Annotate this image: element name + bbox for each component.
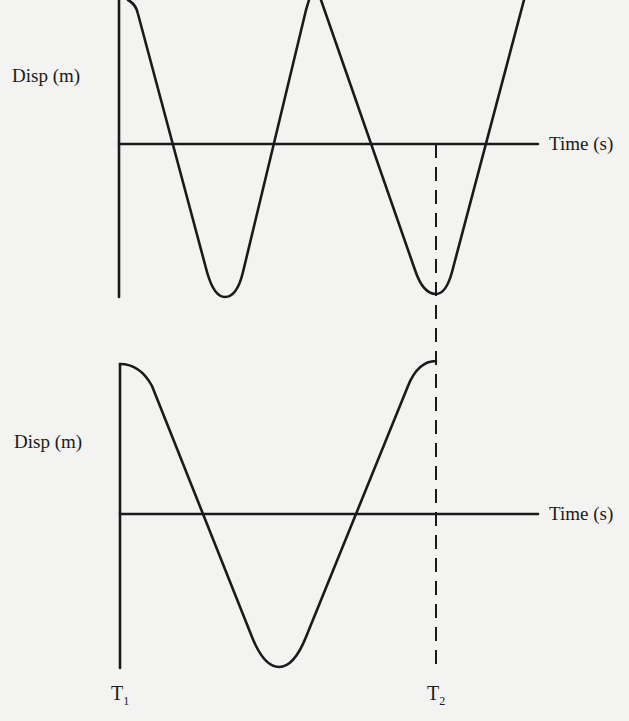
bottom-x-axis-label: Time (s) (549, 504, 613, 523)
top-y-axis-label: Disp (m) (12, 66, 80, 85)
displacement-time-diagram (0, 0, 629, 721)
t1-marker-label: T1 (111, 683, 129, 707)
t2-marker-label: T2 (427, 683, 445, 707)
top-x-axis-label: Time (s) (549, 134, 613, 153)
top-displacement-curve (128, 0, 524, 297)
bottom-y-axis-label: Disp (m) (14, 432, 82, 451)
